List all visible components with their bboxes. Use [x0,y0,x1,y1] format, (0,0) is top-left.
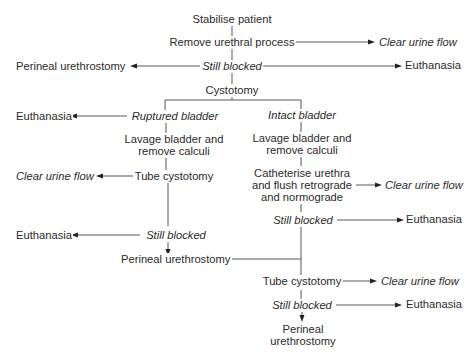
node-intact-bladder: Intact bladder [267,109,337,122]
node-catheterise-line3: and normograde [260,191,344,204]
node-euthanasia: Euthanasia [405,298,463,311]
node-perineal-urethrostomy-line1: Perineal [281,323,324,336]
node-euthanasia: Euthanasia [15,229,73,242]
node-lavage-right-line2: remove calculi [265,144,339,157]
node-lavage-left-line2: remove calculi [137,145,211,158]
node-stabilise-patient: Stabilise patient [192,13,273,26]
node-clear-urine-flow: Clear urine flow [15,170,95,183]
node-catheterise-line1: Catheterise urethra [253,167,351,180]
node-euthanasia: Euthanasia [404,59,462,72]
treatment-flowchart: Stabilise patient Remove urethral proces… [0,0,474,362]
node-lavage-left-line1: Lavage bladder and [124,133,225,146]
node-clear-urine-flow: Clear urine flow [378,36,458,49]
node-euthanasia: Euthanasia [15,110,73,123]
node-tube-cystotomy: Tube cystotomy [262,275,343,288]
node-remove-urethral-process: Remove urethral process [169,36,296,49]
node-tube-cystotomy: Tube cystotomy [134,170,215,183]
node-catheterise-line2: and flush retrograde [251,179,353,192]
node-lavage-right-line1: Lavage bladder and [252,132,353,145]
node-ruptured-bladder: Ruptured bladder [131,110,219,123]
node-still-blocked: Still blocked [271,299,333,312]
node-euthanasia: Euthanasia [405,213,463,226]
node-perineal-urethrostomy: Perineal urethrostomy [120,253,231,266]
node-still-blocked: Still blocked [201,60,263,73]
node-perineal-urethrostomy: Perineal urethrostomy [15,60,126,73]
node-perineal-urethrostomy-line2: urethrostomy [269,335,336,348]
node-clear-urine-flow: Clear urine flow [384,179,464,192]
node-cystotomy: Cystotomy [205,84,260,97]
node-still-blocked: Still blocked [145,229,207,242]
node-still-blocked: Still blocked [272,214,334,227]
node-clear-urine-flow: Clear urine flow [380,275,460,288]
